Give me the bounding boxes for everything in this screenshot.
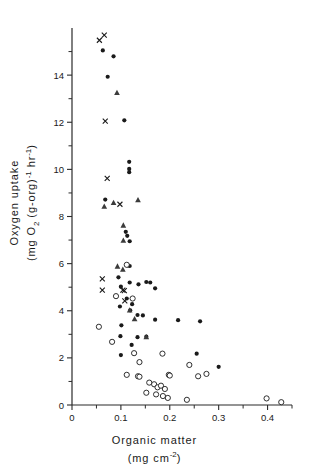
data-point-cross: [97, 38, 102, 43]
data-point-filled-circle: [176, 318, 180, 322]
axis-tick-labels: 00.10.20.30.402468101214: [53, 70, 274, 423]
y-axis-label: Oxygen uptake (mg O2 (g-org)-1 hr-1): [6, 144, 41, 261]
data-point-open-circle: [187, 362, 192, 367]
data-point-cross: [105, 176, 110, 181]
data-point-open-circle: [160, 393, 165, 398]
data-point-open-circle: [124, 262, 129, 267]
data-point-open-circle: [196, 374, 201, 379]
data-point-open-circle: [109, 339, 114, 344]
svg-text:0: 0: [69, 412, 74, 423]
data-point-filled-circle: [144, 280, 148, 284]
data-point-filled-circle: [130, 302, 134, 306]
svg-text:4: 4: [59, 305, 64, 316]
svg-text:0.2: 0.2: [163, 412, 176, 423]
data-point-triangle: [135, 197, 141, 202]
data-point-open-circle: [162, 386, 167, 391]
data-point-open-circle: [279, 400, 284, 405]
data-point-filled-circle: [106, 75, 110, 79]
x-axis-label-line2: (mg cm-2): [0, 449, 309, 466]
data-point-triangle: [120, 237, 126, 242]
data-point-open-circle: [184, 397, 189, 402]
svg-text:14: 14: [53, 70, 64, 81]
data-point-open-circle: [96, 324, 101, 329]
data-point-triangle: [111, 200, 117, 205]
data-point-open-circle: [113, 294, 118, 299]
svg-text:0.4: 0.4: [261, 412, 274, 423]
axes: [72, 28, 292, 405]
data-point-filled-circle: [119, 323, 123, 327]
data-point-filled-circle: [141, 313, 145, 317]
data-point-filled-circle: [118, 304, 122, 308]
svg-text:2: 2: [59, 352, 64, 363]
data-point-open-circle: [131, 351, 136, 356]
y-axis-label-line2: (mg O2 (g-org)-1 hr-1): [22, 144, 41, 261]
data-point-open-circle: [204, 371, 209, 376]
data-point-open-circle: [137, 374, 142, 379]
data-point-filled-circle: [153, 286, 157, 290]
data-point-filled-circle: [124, 230, 128, 234]
svg-text:0.1: 0.1: [114, 412, 127, 423]
data-point-cross: [100, 276, 105, 281]
data-point-filled-circle: [195, 352, 199, 356]
data-point-open-circle: [124, 372, 129, 377]
data-point-filled-circle: [125, 234, 129, 238]
data-point-cross: [102, 33, 107, 38]
data-point-filled-circle: [135, 335, 139, 339]
data-point-filled-circle: [136, 282, 140, 286]
data-point-open-circle: [137, 360, 142, 365]
y-axis-label-line1: Oxygen uptake: [6, 144, 22, 261]
x-axis-label-line1: Organic matter: [0, 432, 309, 449]
data-point-filled-circle: [101, 48, 105, 52]
svg-text:6: 6: [59, 258, 64, 269]
data-point-filled-circle: [128, 280, 132, 284]
svg-text:0.3: 0.3: [212, 412, 225, 423]
data-point-filled-circle: [116, 275, 120, 279]
data-point-triangle: [120, 222, 126, 227]
data-point-cross: [100, 288, 105, 293]
axis-ticks: [67, 52, 292, 410]
data-point-filled-circle: [111, 54, 115, 58]
data-point-filled-circle: [217, 365, 221, 369]
scatter-plot-figure: 00.10.20.30.402468101214 Oxygen uptake (…: [0, 0, 309, 475]
data-point-triangle: [114, 90, 120, 95]
svg-text:8: 8: [59, 211, 64, 222]
svg-text:12: 12: [53, 117, 64, 128]
plot-canvas: 00.10.20.30.402468101214: [0, 0, 309, 475]
data-point-filled-circle: [119, 353, 123, 357]
data-point-triangle: [120, 266, 126, 271]
data-point-filled-circle: [128, 239, 132, 243]
svg-text:10: 10: [53, 164, 64, 175]
data-point-open-circle: [153, 392, 158, 397]
y-axis-label-container: Oxygen uptake (mg O2 (g-org)-1 hr-1): [4, 0, 44, 405]
data-point-filled-circle: [118, 334, 122, 338]
data-point-open-circle: [144, 390, 149, 395]
data-point-triangle: [115, 263, 121, 268]
data-point-open-circle: [264, 396, 269, 401]
data-point-filled-circle: [148, 280, 152, 284]
data-point-filled-circle: [127, 160, 131, 164]
data-point-open-circle: [147, 380, 152, 385]
data-point-filled-circle: [122, 118, 126, 122]
data-point-open-circle: [130, 296, 135, 301]
data-point-filled-circle: [127, 170, 131, 174]
x-axis-label: Organic matter (mg cm-2): [0, 432, 309, 466]
data-point-cross: [103, 119, 108, 124]
data-point-open-circle: [167, 373, 172, 378]
data-point-filled-circle: [198, 319, 202, 323]
data-point-filled-circle: [103, 197, 107, 201]
data-point-filled-circle: [135, 313, 139, 317]
data-point-filled-circle: [130, 343, 134, 347]
data-point-filled-circle: [153, 318, 157, 322]
data-point-open-circle: [160, 351, 165, 356]
data-point-triangle: [101, 204, 107, 209]
data-points: [96, 33, 284, 405]
svg-text:0: 0: [59, 400, 64, 411]
data-point-open-circle: [165, 395, 170, 400]
data-point-cross: [117, 202, 122, 207]
